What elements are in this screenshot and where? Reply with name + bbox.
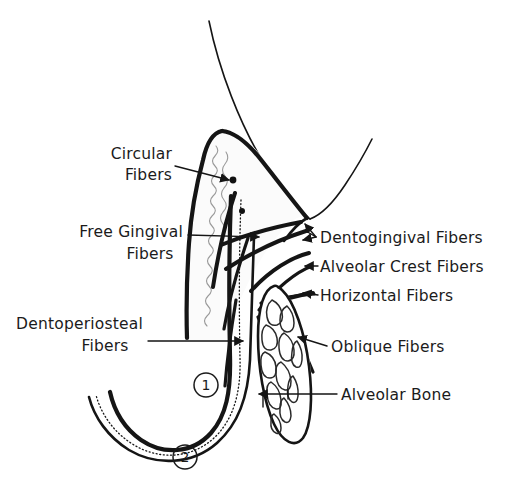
- label-free-gingival-fibers: Free Gingival Fibers: [79, 223, 183, 263]
- alveolar-bone: [258, 286, 312, 443]
- label-alveolar-bone: Alveolar Bone: [341, 386, 451, 404]
- marker-one: 1: [194, 373, 218, 397]
- label-dentoperiosteal-fibers-line1: Dentoperiosteal: [16, 315, 143, 333]
- diagram-canvas: 1 2 Circular Fibers Free Gingival Fibers…: [0, 0, 524, 497]
- periodontal-fibers-diagram: 1 2 Circular Fibers Free Gingival Fibers…: [0, 0, 524, 497]
- label-horizontal-fibers: Horizontal Fibers: [320, 287, 453, 305]
- marker-one-label: 1: [202, 377, 211, 393]
- label-oblique-fibers: Oblique Fibers: [331, 338, 445, 356]
- label-alveolar-crest-fibers: Alveolar Crest Fibers: [320, 258, 484, 276]
- label-circular-fibers: Circular Fibers: [111, 145, 173, 184]
- label-dentogingival-fibers: Dentogingival Fibers: [320, 229, 483, 247]
- label-circular-fibers-line2: Fibers: [125, 166, 172, 184]
- label-dentoperiosteal-fibers-line2: Fibers: [81, 337, 128, 355]
- label-free-gingival-fibers-line1: Free Gingival: [79, 223, 183, 241]
- marker-two-label: 2: [181, 449, 190, 465]
- label-circular-fibers-line1: Circular: [111, 145, 173, 163]
- label-free-gingival-fibers-line2: Fibers: [126, 245, 173, 263]
- label-dentoperiosteal-fibers: Dentoperiosteal Fibers: [16, 315, 143, 355]
